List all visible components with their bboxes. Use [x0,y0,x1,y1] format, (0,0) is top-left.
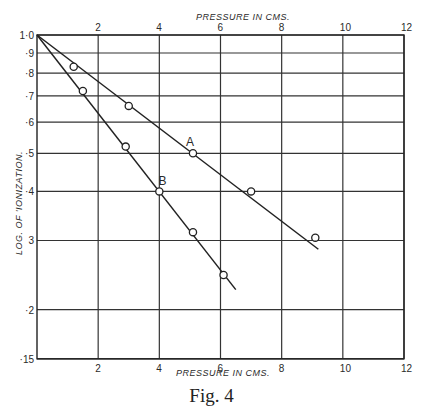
x-tick-label: 10 [340,22,352,33]
x-tick-label: 6 [218,22,224,33]
x-tick-label: 12 [401,363,413,374]
x-tick-label: 10 [340,363,352,374]
x-tick-label: 12 [401,22,413,33]
x-axis-title-bottom: PRESSURE IN CMS. [176,368,270,378]
series-label: B [158,174,166,188]
data-point [156,188,163,195]
x-tick-label: 8 [279,363,285,374]
data-point [122,143,129,150]
y-tick-label: ·7 [25,91,34,102]
y-tick-label: ·2 [25,305,34,316]
data-point [189,150,196,157]
y-tick-label: ·4 [25,186,34,197]
x-axis-top-ticks: 24681012 [95,22,412,33]
data-point [125,102,132,109]
ionization-chart: 24681012 24681012 1·0·9·8·7·6·5·43·2·15 … [0,0,423,414]
y-tick-label: ·6 [25,117,34,128]
y-tick-label: ·5 [25,148,34,159]
y-tick-label: ·8 [25,68,34,79]
y-tick-label: ·9 [25,48,34,59]
series-line [37,35,318,249]
data-point [312,234,319,241]
y-tick-label: 1·0 [20,30,35,41]
data-point [247,188,254,195]
data-point [220,271,227,278]
data-point [189,229,196,236]
series-label: A [186,135,194,149]
y-tick-label: 3 [28,235,34,246]
data-point [70,63,77,70]
x-tick-label: 4 [156,22,162,33]
grid-lines [37,35,404,359]
x-tick-label: 2 [95,22,101,33]
series-a: A [37,35,319,249]
x-tick-label: 2 [95,363,101,374]
y-tick-label: ·15 [20,354,35,365]
x-tick-label: 8 [279,22,285,33]
x-axis-title-top: PRESSURE IN CMS. [196,12,290,22]
x-tick-label: 4 [156,363,162,374]
y-axis-title: LOG. OF 'IONIZATION. [14,151,24,255]
data-point [79,87,86,94]
figure-caption: Fig. 4 [0,385,423,407]
